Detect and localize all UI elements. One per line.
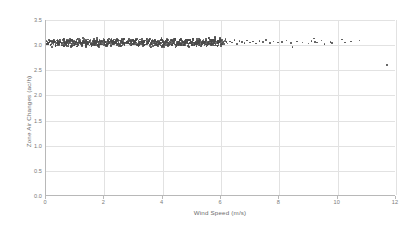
data-point (200, 46, 202, 48)
data-point (236, 43, 238, 45)
data-point (313, 38, 315, 40)
data-point (110, 45, 112, 47)
data-point (262, 41, 264, 43)
data-point (80, 39, 82, 41)
x-axis-tick-mark (395, 196, 396, 199)
plot-area (45, 20, 395, 196)
x-axis-tick-mark (103, 196, 104, 199)
data-point (239, 40, 241, 42)
data-point (386, 64, 388, 66)
data-point (150, 47, 152, 49)
data-point (234, 39, 236, 41)
x-axis-tick-mark (278, 196, 279, 199)
data-point (277, 42, 279, 44)
data-point (231, 42, 233, 44)
x-axis-tick-label: 6 (210, 199, 230, 205)
x-axis-tick-mark (45, 196, 46, 199)
scatter-chart: 0.00.51.01.52.02.53.03.5 024681012 Wind … (0, 0, 416, 229)
data-point (252, 41, 254, 43)
x-axis-tick-label: 10 (327, 199, 347, 205)
data-point (302, 42, 304, 44)
x-axis-tick-label: 0 (35, 199, 55, 205)
data-point (316, 42, 318, 44)
data-point (223, 43, 225, 45)
data-point (70, 45, 72, 47)
data-point (74, 43, 76, 45)
data-point (206, 45, 208, 47)
data-point (244, 42, 246, 44)
data-point (219, 37, 221, 39)
data-point (135, 39, 137, 41)
data-point (255, 43, 257, 45)
x-axis-title: Wind Speed (m/s) (45, 209, 395, 216)
data-point (123, 38, 125, 40)
data-point (273, 41, 275, 43)
data-point (265, 39, 267, 41)
data-point (151, 40, 153, 42)
data-point (98, 46, 100, 48)
data-point (359, 40, 361, 42)
data-point (292, 46, 294, 48)
data-point (249, 42, 251, 44)
data-point (163, 46, 165, 48)
data-point (58, 43, 60, 45)
x-axis-tick-label: 2 (93, 199, 113, 205)
y-axis-title: Zone Air Changes (ac/h) (25, 37, 32, 187)
data-point (179, 39, 181, 41)
data-point (82, 37, 84, 39)
data-point (157, 45, 159, 47)
data-point (246, 40, 248, 42)
x-axis-tick-mark (220, 196, 221, 199)
data-point (147, 40, 149, 42)
data-point (76, 39, 78, 41)
data-points-layer (46, 20, 395, 195)
data-point (344, 42, 346, 44)
data-point (68, 45, 70, 47)
x-axis-tick-label: 8 (268, 199, 288, 205)
x-axis-tick-mark (337, 196, 338, 199)
data-point (205, 38, 207, 40)
data-point (350, 41, 352, 43)
data-point (175, 38, 177, 40)
data-point (76, 46, 78, 48)
x-axis-tick-label: 12 (385, 199, 405, 205)
data-point (57, 45, 59, 47)
data-point (211, 44, 213, 46)
data-point (259, 40, 261, 42)
data-point (144, 44, 146, 46)
x-axis-tick-mark (162, 196, 163, 199)
data-point (99, 39, 101, 41)
y-axis-tick-label: 3.5 (16, 17, 42, 23)
x-axis-tick-label: 4 (152, 199, 172, 205)
data-point (241, 41, 243, 43)
data-point (229, 41, 231, 43)
data-point (144, 42, 146, 44)
data-point (269, 42, 271, 44)
data-point (82, 44, 84, 46)
data-point (308, 43, 310, 45)
data-point (281, 41, 283, 43)
data-point (167, 45, 169, 47)
data-point (105, 45, 107, 47)
data-point (220, 45, 222, 47)
data-point (331, 42, 333, 44)
data-point (296, 41, 298, 43)
data-point (341, 39, 343, 41)
data-point (85, 46, 87, 48)
data-point (311, 40, 313, 42)
data-point (175, 46, 177, 48)
data-point (221, 39, 223, 41)
data-point (286, 40, 288, 42)
data-point (192, 38, 194, 40)
data-point (321, 40, 323, 42)
data-point (324, 43, 326, 45)
gridline-vertical (396, 20, 397, 195)
data-point (290, 42, 292, 44)
data-point (187, 45, 189, 47)
data-point (51, 46, 53, 48)
data-point (227, 43, 229, 45)
data-point (184, 44, 186, 46)
data-point (214, 36, 216, 38)
